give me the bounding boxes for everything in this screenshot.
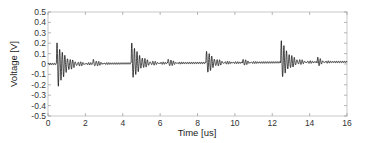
x-tick-label: 0 (46, 118, 51, 128)
y-tick-label: 0 (41, 59, 46, 69)
x-tick-label: 4 (120, 118, 125, 128)
voltage-time-chart: 0.50.40.30.20.10-0.1-0.2-0.3-0.4-0.5 024… (0, 0, 368, 143)
y-tick-label: -0.3 (31, 90, 46, 100)
y-tick-label: 0.5 (34, 7, 46, 17)
y-tick-label: 0.4 (34, 17, 46, 27)
x-tick-label: 2 (83, 118, 88, 128)
x-tick-label: 16 (342, 118, 352, 128)
plot-area (48, 12, 347, 116)
y-tick-label: -0.4 (31, 101, 46, 111)
y-tick-label: 0.1 (34, 49, 46, 59)
x-tick-label: 12 (268, 118, 278, 128)
y-tick-label: -0.1 (31, 69, 46, 79)
y-axis-label: Voltage [V] (8, 41, 19, 87)
y-tick-label: -0.2 (31, 80, 46, 90)
x-tick-label: 10 (230, 118, 240, 128)
y-tick-label: -0.5 (31, 111, 46, 121)
y-tick-label: 0.2 (34, 38, 46, 48)
x-axis-label: Time [us] (178, 127, 217, 138)
y-tick-label: 0.3 (34, 28, 46, 38)
x-tick-label: 14 (305, 118, 315, 128)
x-tick-label: 6 (158, 118, 163, 128)
